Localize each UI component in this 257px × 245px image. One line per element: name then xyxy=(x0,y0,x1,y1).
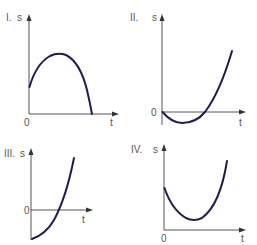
graph-2: II. s 0 t xyxy=(130,12,246,128)
graph-3-y-arrow-icon xyxy=(29,148,34,155)
graph-2-y-label: s xyxy=(152,12,157,23)
graph-1-label: I. xyxy=(6,12,12,23)
graph-3-label: III. xyxy=(4,148,15,159)
graph-3-curve xyxy=(32,158,74,239)
graph-2-y-arrow-icon xyxy=(160,14,165,21)
graph-3-y-label: s xyxy=(20,148,25,159)
graph-1-y-arrow-icon xyxy=(27,14,32,21)
graph-4-y-arrow-icon xyxy=(162,144,167,151)
graph-3-x-label: t xyxy=(82,214,85,225)
graph-2-x-label: t xyxy=(239,117,242,128)
graph-2-x-arrow-icon xyxy=(239,110,246,115)
graph-3-origin-label: 0 xyxy=(24,205,30,216)
graph-1-y-label: s xyxy=(17,12,22,23)
graph-1: I. s 0 t xyxy=(6,12,119,128)
graph-1-x-arrow-icon xyxy=(112,112,119,117)
graph-4-curve xyxy=(165,161,228,220)
graph-2-label: II. xyxy=(130,12,138,23)
graph-1-x-label: t xyxy=(110,117,113,128)
graph-2-origin-label: 0 xyxy=(151,107,157,118)
graph-3-x-arrow-icon xyxy=(86,208,93,213)
graph-4-origin-label: 0 xyxy=(161,233,167,244)
graph-1-origin-label: 0 xyxy=(24,117,30,128)
graph-4-x-arrow-icon xyxy=(239,228,246,233)
motion-graphs: I. s 0 t II. s 0 t III. s 0 t IV. s 0 xyxy=(0,0,257,245)
graph-3: III. s 0 t xyxy=(4,148,93,240)
graph-4-x-label: t xyxy=(241,233,244,244)
graph-4-label: IV. xyxy=(131,144,142,155)
graph-1-curve xyxy=(30,54,93,114)
graph-4: IV. s 0 t xyxy=(131,144,246,244)
graph-4-y-label: s xyxy=(153,144,158,155)
